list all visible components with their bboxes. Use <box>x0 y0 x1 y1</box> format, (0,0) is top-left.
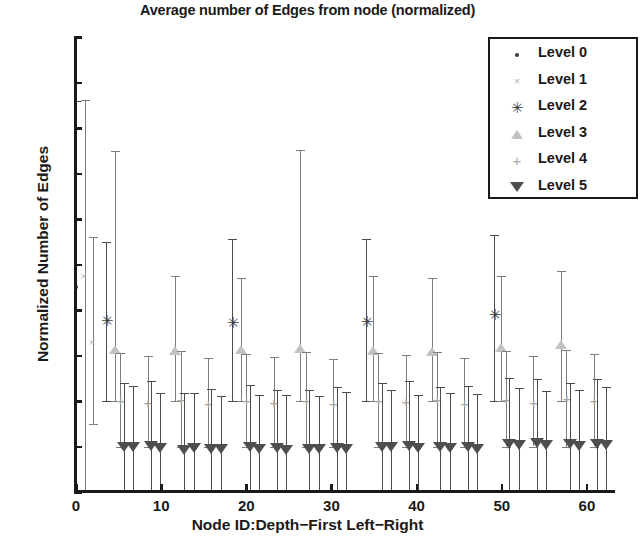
error-bar-cap <box>246 385 255 386</box>
data-point-marker: × <box>81 272 87 281</box>
x-axis-line <box>74 490 615 493</box>
error-bar-cap <box>362 239 371 240</box>
error-bar-cap <box>144 356 153 357</box>
error-bar-cap <box>590 354 599 355</box>
error-bar <box>409 381 410 492</box>
error-bar-cap <box>102 401 111 402</box>
data-point-marker <box>279 445 293 455</box>
error-bar-cap <box>207 389 216 390</box>
error-bar-cap <box>302 352 311 353</box>
error-bar-cap <box>228 239 237 240</box>
error-bar <box>382 383 383 492</box>
error-bar-cap <box>305 390 314 391</box>
legend-item-level-4: +Level 4 <box>490 147 640 174</box>
error-bar-cap <box>557 271 566 272</box>
x-tick-mark <box>75 484 78 493</box>
legend-label: Level 2 <box>538 97 587 113</box>
y-tick-mark <box>74 264 82 267</box>
triangle-down-icon <box>510 182 524 192</box>
legend-label: Level 5 <box>538 177 587 193</box>
data-point-marker <box>187 443 201 453</box>
error-bar <box>241 278 242 401</box>
error-bar-cap <box>273 390 282 391</box>
error-bar <box>194 393 195 492</box>
error-bar-cap <box>473 394 482 395</box>
error-bar <box>211 389 212 492</box>
error-bar <box>93 237 94 424</box>
error-bar <box>286 395 287 492</box>
error-bar-cap <box>120 383 129 384</box>
data-point-marker <box>339 444 353 454</box>
error-bar-cap <box>402 355 411 356</box>
error-bar <box>391 390 392 492</box>
data-point-marker <box>235 345 247 354</box>
legend-label: Level 4 <box>538 150 587 166</box>
error-bar <box>468 386 469 492</box>
error-bar-cap <box>387 390 396 391</box>
data-point-marker <box>214 444 228 454</box>
data-point-marker <box>572 441 586 451</box>
error-bar-cap <box>593 379 602 380</box>
error-bar-cap <box>177 351 186 352</box>
y-tick-mark <box>74 309 82 312</box>
error-bar-cap <box>190 393 199 394</box>
error-bar-cap <box>282 395 291 396</box>
error-bar-cap <box>529 356 538 357</box>
legend-item-level-5: Level 5 <box>490 174 640 201</box>
x-tick-mark <box>416 484 419 493</box>
x-axis-label: Node ID:Depth−First Left−Right <box>0 516 615 534</box>
data-point-marker: ✳ <box>227 317 240 328</box>
error-bar-cap <box>490 235 499 236</box>
y-tick-mark <box>74 400 82 403</box>
error-bar <box>561 271 562 401</box>
data-point-marker <box>599 440 613 450</box>
error-bar-cap <box>446 393 455 394</box>
x-icon: × <box>514 77 520 86</box>
error-bar <box>300 150 301 401</box>
data-point-marker <box>312 444 326 454</box>
error-bar-cap <box>433 352 442 353</box>
error-bar <box>346 392 347 492</box>
error-bar <box>184 393 185 492</box>
error-bar-cap <box>147 381 156 382</box>
y-tick-mark <box>74 355 82 358</box>
legend-marker-icon <box>504 121 530 148</box>
y-tick-mark <box>74 36 82 39</box>
error-bar-cap <box>414 395 423 396</box>
error-bar <box>85 100 86 492</box>
legend-item-level-1: ×Level 1 <box>490 68 640 95</box>
data-point-marker: ✳ <box>361 316 374 327</box>
legend-marker-icon <box>504 174 530 201</box>
error-bar-cap <box>460 358 469 359</box>
error-bar-cap <box>436 387 445 388</box>
data-point-marker <box>126 442 140 452</box>
error-bar-cap <box>111 151 120 152</box>
error-bar-cap <box>502 351 511 352</box>
error-bar <box>373 276 374 401</box>
error-bar-cap <box>217 396 226 397</box>
legend-marker-icon: × <box>504 68 530 95</box>
error-bar <box>133 386 134 492</box>
error-bar <box>175 276 176 401</box>
error-bar-cap <box>296 150 305 151</box>
data-point-marker <box>153 443 167 453</box>
x-tick-mark <box>586 484 589 493</box>
error-bar-cap <box>81 100 90 101</box>
error-bar <box>337 387 338 492</box>
asterisk-icon: ✳ <box>511 102 524 113</box>
y-tick-mark <box>74 446 82 449</box>
legend-item-level-3: Level 3 <box>490 121 640 148</box>
error-bar-cap <box>171 276 180 277</box>
data-point-marker <box>512 440 526 450</box>
error-bar-cap <box>129 386 138 387</box>
legend-label: Level 1 <box>538 71 587 87</box>
error-bar <box>115 151 116 401</box>
error-bar-cap <box>575 390 584 391</box>
triangle-up-icon <box>511 130 523 139</box>
chart-legend: Level 0×Level 1✳Level 2Level 3+Level 4Le… <box>488 37 638 199</box>
error-bar-cap <box>255 395 264 396</box>
error-bar-cap <box>566 383 575 384</box>
dot-icon <box>515 53 519 57</box>
error-bar-cap <box>89 237 98 238</box>
